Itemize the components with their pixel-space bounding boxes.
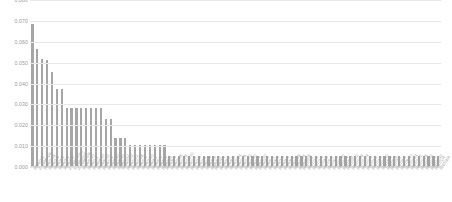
x-axis: 1996/3/82. 1996/3/81996/3/161996/3/41996…: [30, 167, 441, 202]
y-axis-tick-label: 0.060: [15, 39, 28, 45]
y-axis-tick-label: 0.070: [15, 18, 28, 24]
gridline: [30, 21, 441, 22]
plot-area: [30, 0, 441, 167]
bar: [41, 59, 43, 166]
gridline: [30, 146, 441, 147]
y-axis-tick-label: 0.040: [15, 81, 28, 87]
y-axis-tick-label: 0.030: [15, 101, 28, 107]
gridline: [30, 125, 441, 126]
x-tick-slot: 1997/4/4: [436, 167, 441, 202]
gridline: [30, 104, 441, 105]
gridline: [30, 0, 441, 1]
y-axis-tick-label: 0.000: [15, 164, 28, 170]
y-axis-tick-label: 0.050: [15, 60, 28, 66]
y-axis-tick-label: 0.080: [15, 0, 28, 3]
bar: [31, 24, 33, 166]
bar-series: [30, 0, 441, 166]
y-axis: 0.0800.0700.0600.0500.0400.0300.0200.010…: [0, 0, 30, 167]
gridline: [30, 84, 441, 85]
gridline: [30, 63, 441, 64]
bar-slot: [436, 0, 441, 166]
gridline: [30, 42, 441, 43]
y-axis-tick-label: 0.020: [15, 122, 28, 128]
bar: [36, 49, 38, 166]
y-axis-tick-label: 0.010: [15, 143, 28, 149]
